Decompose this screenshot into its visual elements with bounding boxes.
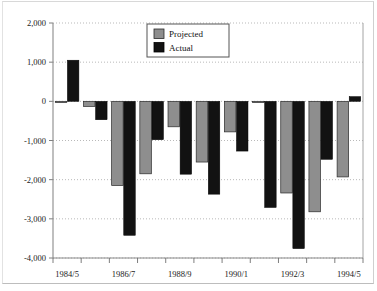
- x-axis-tick-label: 1990/1: [224, 269, 248, 279]
- bar-projected: [196, 101, 208, 162]
- y-axis-tick-label: -3,000: [24, 214, 46, 224]
- x-axis-tick-label: 1986/7: [112, 269, 136, 279]
- bar-projected: [309, 101, 321, 211]
- bar-actual: [124, 101, 136, 235]
- bar-actual: [349, 97, 361, 102]
- bar-actual: [208, 101, 220, 194]
- x-axis-tick-label: 1994/5: [337, 269, 361, 279]
- y-axis-tick-label: 1,000: [27, 57, 46, 67]
- bar-actual: [236, 101, 248, 151]
- x-axis-tick-label: 1992/3: [281, 269, 305, 279]
- y-axis-tick-label: -2,000: [24, 175, 46, 185]
- y-axis-tick-label: 2,000: [27, 18, 46, 28]
- bar-actual: [67, 60, 79, 101]
- bar-actual: [152, 101, 164, 139]
- bar-actual: [180, 101, 192, 174]
- legend-swatch-projected-icon: [154, 29, 164, 39]
- bar-projected: [281, 101, 293, 193]
- bar-projected: [253, 101, 265, 102]
- x-axis-tick-label: 1988/9: [168, 269, 192, 279]
- bar-actual: [265, 101, 277, 207]
- bar-projected: [83, 101, 95, 106]
- legend-swatch-actual-icon: [154, 43, 164, 53]
- bar-projected: [55, 101, 67, 102]
- chart-figure: 2,0001,0000-1,000-2,000-3,000-4,0001984/…: [0, 0, 377, 291]
- bar-projected: [140, 101, 152, 173]
- x-axis-tick-label: 1984/5: [55, 269, 79, 279]
- y-axis-tick-label: -1,000: [24, 136, 46, 146]
- bar-actual: [293, 101, 305, 248]
- bar-actual: [321, 101, 333, 159]
- y-axis-tick-label: 0: [42, 96, 46, 106]
- bar-actual: [96, 101, 108, 119]
- bar-projected: [112, 101, 124, 185]
- legend-label-actual: Actual: [169, 43, 193, 53]
- legend-label-projected: Projected: [169, 29, 203, 39]
- bar-projected: [337, 101, 349, 177]
- y-axis-tick-label: -4,000: [24, 253, 46, 263]
- bar-projected: [224, 101, 236, 132]
- bar-projected: [168, 101, 180, 126]
- bar-chart-canvas: 2,0001,0000-1,000-2,000-3,000-4,0001984/…: [0, 0, 377, 291]
